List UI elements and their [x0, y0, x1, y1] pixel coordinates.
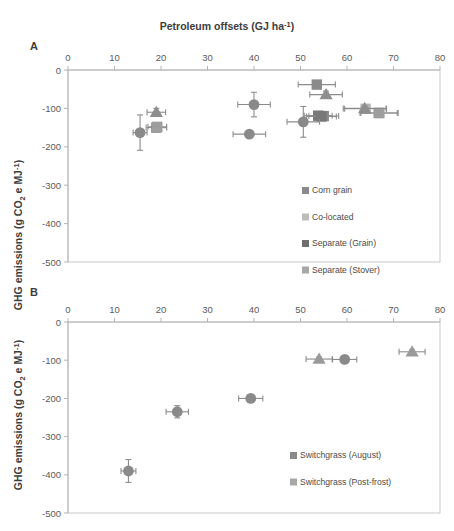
y-tick-label: -100 [42, 355, 61, 366]
x-tick-label: 30 [202, 304, 213, 315]
marker-square [152, 122, 162, 132]
panel-a-y-axis-label: GHG emissions (g CO2 e MJ-1) [12, 160, 28, 310]
x-tick-label: 0 [65, 52, 70, 63]
figure-title-tail: ) [291, 20, 295, 32]
legend-label: Co-located [312, 212, 354, 222]
legend-label: Separate (Grain) [312, 238, 376, 248]
marker-circle [244, 129, 255, 140]
legend-swatch [302, 214, 309, 221]
x-tick-label: 20 [156, 304, 167, 315]
x-tick-label: 60 [342, 52, 353, 63]
y-tick-label: -500 [42, 508, 61, 519]
marker-square [316, 111, 326, 121]
x-tick-label: 10 [109, 304, 120, 315]
legend-swatch [290, 479, 297, 486]
marker-circle [249, 99, 260, 110]
marker-triangle [150, 106, 163, 117]
data-point [333, 354, 357, 365]
marker-square [373, 108, 383, 118]
legend-label: Switchgrass (Post-frost) [300, 477, 391, 487]
marker-triangle [313, 352, 326, 363]
marker-circle [135, 127, 146, 138]
data-point [306, 352, 332, 363]
panel-a-tick-labels: 010203040506070800-100-200-300-400-500 [42, 52, 445, 268]
x-tick-label: 80 [435, 304, 446, 315]
legend-swatch [302, 267, 309, 274]
y-tick-label: 0 [56, 65, 61, 76]
y-tick-label: -100 [42, 103, 61, 114]
figure-title: Petroleum offsets (GJ ha-1) [160, 20, 294, 33]
x-tick-label: 70 [388, 52, 399, 63]
legend-label: Corn grain [312, 185, 352, 195]
marker-circle [245, 393, 256, 404]
y-tick-label: -300 [42, 431, 61, 442]
data-point [239, 393, 263, 404]
y-tick-label: -200 [42, 393, 61, 404]
x-tick-label: 20 [156, 52, 167, 63]
y-tick-label: -200 [42, 141, 61, 152]
x-tick-label: 0 [65, 304, 70, 315]
y-tick-label: -500 [42, 257, 61, 268]
marker-circle [123, 466, 134, 477]
panel-b-data-points [121, 345, 425, 482]
marker-square [312, 79, 322, 89]
x-tick-label: 40 [249, 52, 260, 63]
x-tick-label: 50 [295, 52, 306, 63]
data-point [233, 129, 266, 140]
data-point [166, 406, 188, 418]
data-point [133, 115, 147, 150]
data-point [298, 79, 335, 89]
svg-text:GHG emissions (g CO2 e MJ-1): GHG emissions (g CO2 e MJ-1) [12, 160, 28, 310]
data-point [238, 92, 271, 117]
y-tick-label: -400 [42, 469, 61, 480]
marker-circle [339, 354, 350, 365]
panel-a-label: A [30, 40, 38, 52]
legend-swatch [302, 187, 309, 194]
panel-a-legend: Corn grainCo-locatedSeparate (Grain)Sepa… [302, 185, 380, 275]
panel-b-legend: Switchgrass (August)Switchgrass (Post-fr… [290, 450, 391, 487]
y-tick-label: -400 [42, 218, 61, 229]
data-point [399, 345, 425, 356]
legend-swatch [302, 240, 309, 247]
panel-b: B 010203040506070800-100-200-300-400-500… [12, 286, 446, 519]
x-tick-label: 30 [202, 52, 213, 63]
panel-a-data-points [133, 79, 398, 150]
x-tick-label: 10 [109, 52, 120, 63]
data-point [147, 106, 166, 117]
y-tick-label: 0 [56, 317, 61, 328]
marker-triangle [406, 345, 419, 356]
data-point [148, 122, 167, 132]
x-tick-label: 40 [249, 304, 260, 315]
panel-b-label: B [30, 286, 38, 298]
data-point [121, 460, 136, 483]
marker-circle [172, 406, 183, 417]
x-tick-label: 50 [295, 304, 306, 315]
svg-text:GHG emissions (g CO2 e MJ-1): GHG emissions (g CO2 e MJ-1) [12, 340, 28, 490]
legend-label: Separate (Stover) [312, 265, 380, 275]
figure-title-main: Petroleum offsets (GJ ha [160, 20, 284, 32]
x-tick-label: 70 [388, 304, 399, 315]
x-tick-label: 80 [435, 52, 446, 63]
legend-swatch [290, 452, 297, 459]
legend-label: Switchgrass (August) [300, 450, 381, 460]
panel-b-y-axis-label: GHG emissions (g CO2 e MJ-1) [12, 340, 28, 490]
figure-container: Petroleum offsets (GJ ha-1) A 0102030405… [0, 0, 454, 531]
x-tick-label: 60 [342, 304, 353, 315]
scatter-figure: Petroleum offsets (GJ ha-1) A 0102030405… [0, 0, 454, 531]
marker-circle [298, 116, 309, 127]
y-tick-label: -300 [42, 180, 61, 191]
panel-a: A 010203040506070800-100-200-300-400-500… [12, 40, 446, 310]
panel-a-axes [64, 66, 440, 262]
figure-title-sup: -1 [284, 20, 291, 29]
